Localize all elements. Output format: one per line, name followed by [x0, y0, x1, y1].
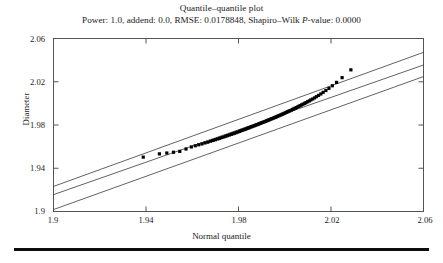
y-tick-label-2-06: 2.06 [5, 34, 45, 44]
data-point [197, 143, 200, 146]
figure-title: Quantile–quantile plot [0, 2, 443, 14]
data-point [142, 156, 145, 159]
data-point [341, 76, 344, 79]
x-tick-label-2-06: 2.06 [405, 215, 443, 225]
subtitle-after: -value: 0.0000 [308, 15, 361, 25]
x-tick-label-2-02: 2.02 [312, 215, 352, 225]
upper-band [54, 52, 424, 186]
data-point [324, 89, 327, 92]
data-point [178, 150, 181, 153]
data-point [322, 91, 325, 94]
qq-plot-figure: Quantile–quantile plot Power: 1.0, adden… [0, 0, 443, 263]
y-tick-label-1-94: 1.94 [5, 163, 45, 173]
data-point [194, 144, 197, 147]
figure-title-block: Quantile–quantile plot Power: 1.0, adden… [0, 2, 443, 26]
data-point [331, 84, 334, 87]
x-tick-label-1-98: 1.98 [219, 215, 259, 225]
figure-subtitle: Power: 1.0, addend: 0.0, RMSE: 0.0178848… [0, 14, 443, 26]
data-point [172, 151, 175, 154]
plot-frame [54, 39, 424, 212]
data-point [349, 68, 352, 71]
data-point [335, 81, 338, 84]
y-axis-title: Diameter [21, 69, 31, 149]
subtitle-before: Power: 1.0, addend: 0.0, RMSE: 0.0178848… [82, 15, 302, 25]
data-point [206, 141, 209, 144]
data-point [203, 141, 206, 144]
x-tick-label-1-9: 1.9 [33, 215, 73, 225]
data-point [327, 87, 330, 90]
data-point [158, 152, 161, 155]
data-point [190, 145, 193, 148]
data-point [200, 142, 203, 145]
x-tick-label-1-94: 1.94 [126, 215, 166, 225]
x-axis-title: Normal quantile [0, 231, 443, 241]
axis-frame [54, 39, 424, 212]
plot-area [53, 38, 424, 212]
plot-canvas [53, 38, 424, 212]
footer-rule [14, 248, 429, 251]
axis-ticks [54, 39, 424, 212]
data-point [165, 151, 168, 154]
data-point [184, 147, 187, 150]
lower-band [54, 77, 424, 210]
